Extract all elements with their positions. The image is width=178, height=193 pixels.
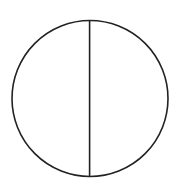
diagram-canvas — [0, 0, 178, 193]
divided-circle-diagram — [0, 0, 178, 193]
